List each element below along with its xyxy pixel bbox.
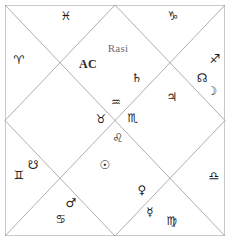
planet-glyph-rahu: ☊ <box>197 72 208 84</box>
sign-glyph-gemini: ♊ <box>14 169 25 181</box>
planet-glyph-venus: ♀ <box>138 184 147 196</box>
planet-glyph-moon: ☽ <box>207 85 218 97</box>
sign-glyph-leo: ♌ <box>113 132 124 144</box>
sign-glyph-aries: ♈ <box>14 54 25 66</box>
sign-glyph-pisces: ♓ <box>61 10 72 22</box>
sign-glyph-cancer: ♋ <box>56 213 67 225</box>
planet-glyph-ketu: ☋ <box>28 159 39 171</box>
sign-glyph-aquarius: ♒ <box>111 97 121 108</box>
sign-glyph-sagittarius: ♐ <box>210 53 221 65</box>
glyph-layer: ♓ ♑ ♈ ♐ ♒ ♉ ♏ ♌ ♊ ♎ ♋ ♍ ♄ ♃ ☊ ☽ ☋ ☉ ♂ ♀ … <box>0 0 230 241</box>
sign-glyph-taurus: ♉ <box>96 113 107 125</box>
sign-glyph-libra: ♎ <box>209 170 220 182</box>
sign-glyph-virgo: ♍ <box>167 215 178 227</box>
sign-glyph-scorpio: ♏ <box>128 112 139 124</box>
planet-glyph-mars: ♂ <box>66 197 77 209</box>
chart-title: Rasi <box>108 43 128 54</box>
planet-glyph-mercury: ☿ <box>146 206 153 218</box>
planet-glyph-saturn: ♄ <box>132 72 143 84</box>
planet-glyph-jupiter: ♃ <box>167 91 178 103</box>
ascendant-label: AC <box>79 58 97 70</box>
rasi-chart: ♓ ♑ ♈ ♐ ♒ ♉ ♏ ♌ ♊ ♎ ♋ ♍ ♄ ♃ ☊ ☽ ☋ ☉ ♂ ♀ … <box>0 0 230 241</box>
sign-glyph-capricorn: ♑ <box>168 10 179 22</box>
planet-glyph-sun: ☉ <box>100 159 111 171</box>
